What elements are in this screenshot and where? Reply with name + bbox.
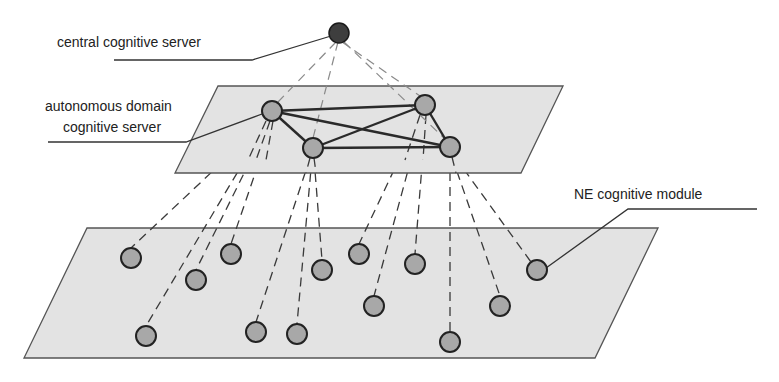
- domain-server-label-line2: cognitive server: [63, 119, 161, 135]
- ne-module-node: [527, 260, 547, 280]
- ne-module-node: [121, 248, 141, 268]
- domain-server-node: [262, 101, 282, 121]
- domain-server-label-line1: autonomous domain: [45, 98, 172, 114]
- ne-module-node: [136, 326, 156, 346]
- ne-module-node: [312, 260, 332, 280]
- ne-module-node: [364, 296, 384, 316]
- ne-module-node: [186, 270, 206, 290]
- cognitive-network-diagram: central cognitive server autonomous doma…: [0, 0, 779, 382]
- ne-module-node: [490, 296, 510, 316]
- ne-module-node: [440, 332, 460, 352]
- domain-server-node: [303, 138, 323, 158]
- central-cognitive-server-node: [329, 23, 349, 43]
- domain-server-node: [415, 95, 435, 115]
- ne-module-label: NE cognitive module: [574, 186, 703, 202]
- domain-server-node: [440, 137, 460, 157]
- ne-module-node: [405, 254, 425, 274]
- ne-module-node: [221, 244, 241, 264]
- ne-module-node: [246, 322, 266, 342]
- ne-layer-plane: [24, 228, 658, 358]
- central-server-label: central cognitive server: [57, 34, 201, 50]
- ne-module-node: [349, 244, 369, 264]
- ne-module-node: [287, 324, 307, 344]
